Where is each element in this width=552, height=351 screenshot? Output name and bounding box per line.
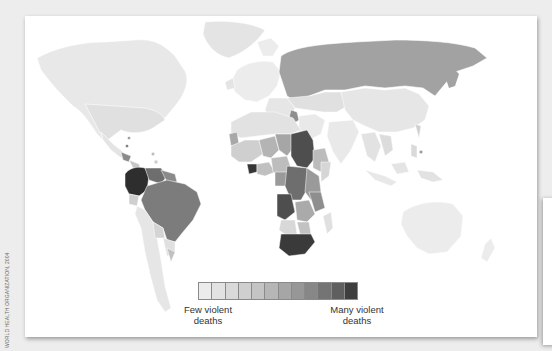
legend-high-label: Many violent deaths bbox=[317, 304, 397, 326]
legend-swatch-4 bbox=[239, 283, 252, 299]
legend-swatch-7 bbox=[279, 283, 292, 299]
legend-low-label: Few violent deaths bbox=[168, 304, 248, 326]
legend-swatch-9 bbox=[305, 283, 318, 299]
legend-swatch-3 bbox=[226, 283, 239, 299]
image-credit: World Health Organization, 2004 bbox=[4, 253, 10, 348]
legend-swatch-11 bbox=[332, 283, 345, 299]
legend-swatch-2 bbox=[212, 283, 225, 299]
figure-stage: World Health Organization, 2004 bbox=[0, 0, 552, 351]
oceania bbox=[365, 162, 495, 262]
south-america bbox=[125, 167, 201, 312]
legend-swatch-8 bbox=[292, 283, 305, 299]
legend-swatch-1 bbox=[199, 283, 212, 299]
map-panel: Few violent deaths Many violent deaths bbox=[25, 16, 537, 337]
legend-scale bbox=[198, 282, 358, 300]
adjacent-panel-edge bbox=[543, 198, 552, 345]
legend-high-line2: deaths bbox=[317, 315, 397, 326]
legend-high-line1: Many violent bbox=[317, 304, 397, 315]
legend-low-line2: deaths bbox=[168, 315, 248, 326]
central-america bbox=[121, 136, 158, 170]
legend-swatch-6 bbox=[265, 283, 278, 299]
legend-low-line1: Few violent bbox=[168, 304, 248, 315]
legend-swatch-12 bbox=[345, 283, 357, 299]
legend-swatch-10 bbox=[318, 283, 331, 299]
legend-swatch-5 bbox=[252, 283, 265, 299]
